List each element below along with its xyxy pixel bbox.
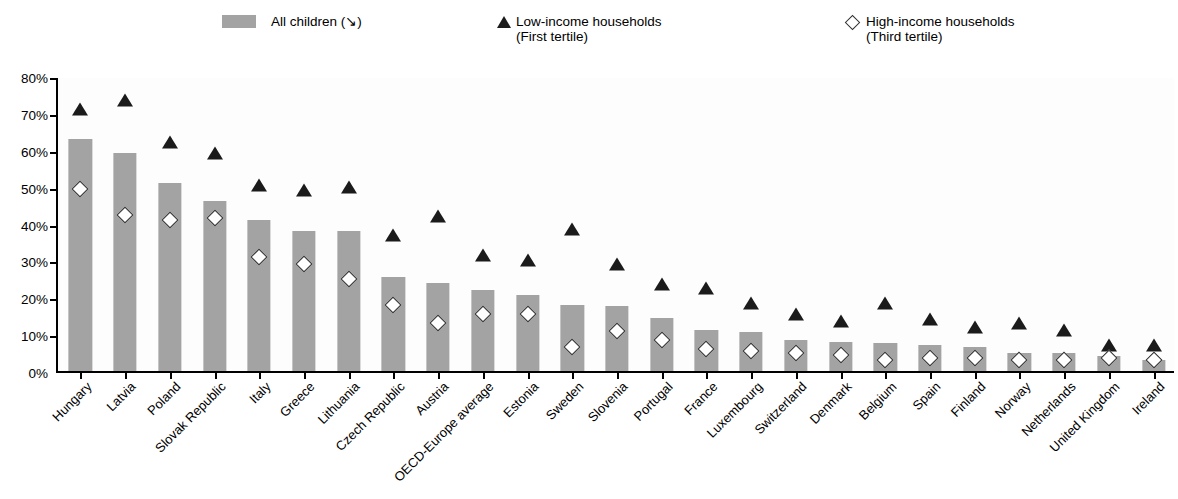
diamond-icon [845, 15, 861, 31]
chart-column [282, 76, 327, 371]
y-axis-tick-label: 0% [0, 366, 48, 381]
x-axis-labels: HungaryLatviaPolandSlovak RepublicItalyG… [56, 373, 1174, 499]
marker-low-income-triangle [162, 136, 178, 149]
x-axis-label: Ireland [1129, 379, 1168, 418]
x-axis-label: Italy [246, 379, 273, 406]
marker-low-income-triangle [609, 258, 625, 271]
marker-low-income-triangle [743, 296, 759, 309]
marker-low-income-triangle [967, 320, 983, 333]
marker-low-income-triangle [564, 223, 580, 236]
x-axis-label: Hungary [49, 379, 94, 424]
marker-low-income-triangle [654, 278, 670, 291]
marker-low-income-triangle [698, 282, 714, 295]
marker-low-income-triangle [296, 184, 312, 197]
x-axis-label: France [681, 379, 720, 418]
marker-low-income-triangle [1011, 317, 1027, 330]
chart-column [192, 76, 237, 371]
chart-column [550, 76, 595, 371]
x-axis-label: Poland [145, 379, 184, 418]
marker-low-income-triangle [430, 210, 446, 223]
marker-low-income-triangle [207, 147, 223, 160]
legend-label-all-children: All children (↘) [271, 14, 362, 29]
bar-all-children [292, 231, 315, 371]
chart-column [326, 76, 371, 371]
y-axis-tick-label: 70% [0, 107, 48, 122]
x-axis-label: Finland [948, 379, 989, 420]
bar-all-children [248, 220, 271, 371]
chart-legend: All children (↘) Low-income households (… [0, 0, 1178, 64]
marker-low-income-triangle [1146, 339, 1162, 352]
x-axis-label: Greece [277, 379, 318, 420]
plot-area [56, 78, 1174, 373]
bar-all-children [69, 139, 92, 371]
x-axis-label: Austria [413, 379, 452, 418]
chart-column [460, 76, 505, 371]
marker-low-income-triangle [475, 248, 491, 261]
marker-low-income-triangle [877, 296, 893, 309]
marker-low-income-triangle [341, 180, 357, 193]
chart-column [774, 76, 819, 371]
x-axis-label: Denmark [807, 379, 855, 427]
bar-swatch-icon [222, 15, 256, 28]
legend-item-low-income: Low-income households (First tertile) [497, 14, 662, 44]
y-axis-tick-label: 10% [0, 329, 48, 344]
x-axis-label: Spain [910, 379, 944, 413]
marker-low-income-triangle [251, 178, 267, 191]
chart-column [103, 76, 148, 371]
bar-all-children [471, 290, 494, 371]
x-axis-label: Latvia [104, 379, 139, 414]
y-axis-tick-label: 80% [0, 71, 48, 86]
chart-column [952, 76, 997, 371]
bar-all-children [113, 153, 136, 371]
y-axis-tick-label: 30% [0, 255, 48, 270]
chart-column [908, 76, 953, 371]
legend-item-high-income: High-income households (Third tertile) [846, 14, 1015, 44]
marker-low-income-triangle [922, 313, 938, 326]
chart-column [1087, 76, 1132, 371]
bar-all-children [382, 277, 405, 371]
legend-label-line1: All children (↘) [271, 14, 362, 29]
marker-low-income-triangle [117, 93, 133, 106]
chart-column [863, 76, 908, 371]
chart-column [639, 76, 684, 371]
y-axis-tick-label: 60% [0, 144, 48, 159]
x-axis-label: Sweden [542, 379, 586, 423]
chart-column [595, 76, 640, 371]
chart-column [371, 76, 416, 371]
legend-label-low-income: Low-income households (First tertile) [516, 14, 662, 44]
legend-label-high-income: High-income households (Third tertile) [866, 14, 1015, 44]
y-axis-tick-label: 50% [0, 181, 48, 196]
marker-low-income-triangle [385, 228, 401, 241]
chart-column [997, 76, 1042, 371]
bar-all-children [337, 231, 360, 371]
legend-label-line2: (First tertile) [516, 29, 662, 44]
x-axis-label: Portugal [631, 379, 676, 424]
chart-column [1131, 76, 1176, 371]
legend-label-line2: (Third tertile) [866, 29, 1015, 44]
x-axis-label: Estonia [500, 379, 541, 420]
chart-column [1042, 76, 1087, 371]
legend-label-line1: High-income households [866, 14, 1015, 29]
y-axis-tick-label: 20% [0, 292, 48, 307]
chart-column [505, 76, 550, 371]
triangle-icon [497, 16, 511, 28]
marker-low-income-triangle [1056, 324, 1072, 337]
y-axis-tick-label: 40% [0, 218, 48, 233]
chart-column [237, 76, 282, 371]
marker-low-income-triangle [72, 103, 88, 116]
x-axis-label: Belgium [855, 379, 899, 423]
chart-column [58, 76, 103, 371]
legend-item-all-children: All children (↘) [222, 14, 362, 29]
marker-low-income-triangle [788, 307, 804, 320]
legend-label-line1: Low-income households [516, 14, 662, 29]
x-axis-label: Norway [992, 379, 1034, 421]
marker-low-income-triangle [833, 315, 849, 328]
chart-column [147, 76, 192, 371]
chart-column [729, 76, 774, 371]
marker-low-income-triangle [520, 254, 536, 267]
chart-column [416, 76, 461, 371]
chart-column [684, 76, 729, 371]
chart-column [818, 76, 863, 371]
x-axis-label: Slovenia [585, 379, 631, 425]
